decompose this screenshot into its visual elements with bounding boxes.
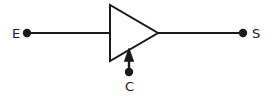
emitter-terminal-node[interactable] — [23, 29, 31, 37]
control-terminal-node[interactable] — [125, 68, 133, 76]
schematic-svg: E C S — [0, 0, 274, 99]
source-terminal-node[interactable] — [239, 29, 247, 37]
control-terminal-label: C — [125, 79, 134, 94]
amplifier-triangle — [110, 5, 158, 61]
source-terminal-label: S — [252, 26, 260, 41]
diagram-canvas: E C S — [0, 0, 274, 99]
emitter-terminal-label: E — [12, 26, 20, 41]
